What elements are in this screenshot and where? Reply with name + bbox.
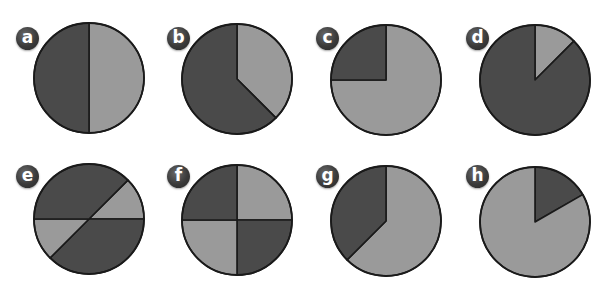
pie-chart-h — [0, 0, 611, 296]
